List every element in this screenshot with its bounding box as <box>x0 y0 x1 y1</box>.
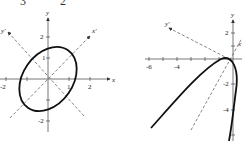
y-prime-axis <box>169 28 229 59</box>
x-tick-2: 2 <box>88 83 92 91</box>
y-tick-neg2: -2 <box>223 80 229 88</box>
x-tick-neg4: -4 <box>174 63 180 71</box>
y-tick-1: 1 <box>42 54 46 62</box>
x-axis-label: x <box>111 76 116 84</box>
x-prime-label: x' <box>237 40 242 48</box>
y-prime-label: y' <box>164 20 170 28</box>
y-prime-label: y' <box>0 27 6 35</box>
ellipse-graph: x y -2 1 2 2 1 -2 x' y' <box>0 0 121 141</box>
parabola-graph: -6 -4 y 2 -2 -4 y' x' <box>121 0 242 141</box>
y-tick-2: 2 <box>225 29 229 37</box>
y-axis-label: y <box>45 9 50 17</box>
x-prime-label: x' <box>91 27 97 35</box>
y-tick-neg2: -2 <box>38 117 44 125</box>
y-prime-axis <box>8 32 84 116</box>
y-axis-label: y <box>230 11 235 19</box>
x-tick-neg2: -2 <box>0 83 6 91</box>
x-axis <box>0 77 110 81</box>
x-tick-neg6: -6 <box>146 63 152 71</box>
y-tick-neg4: -4 <box>223 106 229 114</box>
y-tick-2: 2 <box>40 33 44 41</box>
